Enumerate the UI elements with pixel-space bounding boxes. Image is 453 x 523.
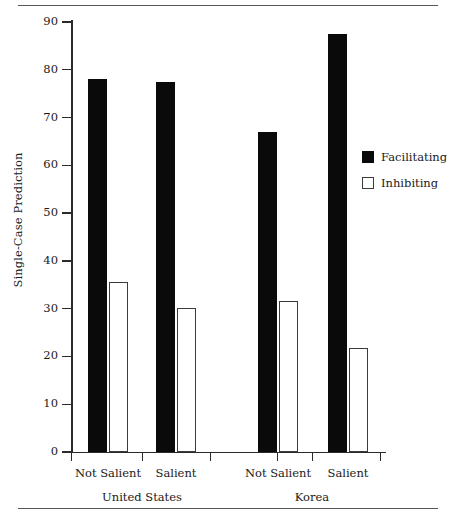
y-axis-tick xyxy=(62,212,72,213)
bar-facilitating xyxy=(88,79,107,452)
y-axis-tick xyxy=(62,165,72,166)
x-axis-tick xyxy=(312,452,313,461)
legend: Facilitating Inhibiting xyxy=(362,150,447,202)
y-axis-tick xyxy=(62,117,72,118)
y-axis-tick-label: 10 xyxy=(26,398,58,410)
bar-facilitating xyxy=(156,82,175,452)
y-axis-tick xyxy=(62,356,72,357)
legend-item-facilitating: Facilitating xyxy=(362,150,447,164)
y-axis-tick-label: 50 xyxy=(26,207,58,219)
legend-swatch-open-icon xyxy=(362,177,374,189)
legend-item-inhibiting: Inhibiting xyxy=(362,176,447,190)
group-label-united-states: United States xyxy=(98,490,186,504)
y-axis-tick-label: 0 xyxy=(26,446,58,458)
y-axis-tick xyxy=(62,308,72,309)
bar-inhibiting xyxy=(349,348,368,452)
x-axis-tick xyxy=(71,452,72,461)
xtick-label-korea-salient: Salient xyxy=(304,466,392,480)
y-axis-tick-label: 80 xyxy=(26,64,58,76)
y-axis-tick xyxy=(62,69,72,70)
bar-facilitating xyxy=(258,132,277,452)
bar-inhibiting xyxy=(109,282,128,452)
y-axis-tick-label: 70 xyxy=(26,112,58,124)
y-axis-tick-label: 30 xyxy=(26,303,58,315)
figure: Single-Case Prediction 90807060504030201… xyxy=(0,0,453,523)
bar-facilitating xyxy=(328,34,347,452)
y-axis-tick xyxy=(62,404,72,405)
x-axis-tick xyxy=(142,452,143,461)
legend-label-facilitating: Facilitating xyxy=(381,150,447,164)
xtick-label-us-salient: Salient xyxy=(132,466,220,480)
x-axis-tick xyxy=(277,452,278,461)
bar-inhibiting xyxy=(279,301,298,452)
bar-inhibiting xyxy=(177,308,196,452)
legend-label-inhibiting: Inhibiting xyxy=(381,176,438,190)
y-axis-tick xyxy=(62,21,72,22)
y-axis-line xyxy=(71,20,73,453)
y-axis-tick-label: 20 xyxy=(26,350,58,362)
x-axis-tick xyxy=(210,452,211,461)
bar-chart-plot: Single-Case Prediction 90807060504030201… xyxy=(0,0,453,523)
y-axis-title: Single-Case Prediction xyxy=(11,140,25,300)
y-axis-tick-label: 60 xyxy=(26,159,58,171)
group-label-korea: Korea xyxy=(268,490,356,504)
y-axis-tick xyxy=(62,260,72,261)
y-axis-tick-label: 40 xyxy=(26,255,58,267)
y-axis-tick-label: 90 xyxy=(26,16,58,28)
legend-swatch-filled-icon xyxy=(362,151,374,163)
x-axis-tick xyxy=(380,452,381,461)
